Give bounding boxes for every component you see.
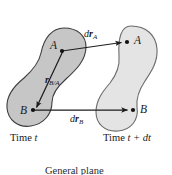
time-label-tdt-value: t + dt bbox=[127, 132, 150, 143]
figure-canvas bbox=[0, 0, 172, 175]
time-label-t-prefix: Time bbox=[10, 132, 34, 143]
general-plane-motion-figure: A B A B drA rB/A drB Time t Time t + dt … bbox=[0, 0, 172, 175]
vector-label-drA: drA bbox=[84, 29, 97, 41]
time-label-tdt-prefix: Time bbox=[103, 132, 127, 143]
point-dot-B-initial bbox=[31, 108, 35, 112]
point-label-B-initial: B bbox=[20, 105, 27, 117]
vector-label-drB-sub: B bbox=[79, 118, 83, 126]
point-label-B-final: B bbox=[140, 104, 147, 116]
point-dot-A-final bbox=[125, 40, 129, 44]
point-dot-A-initial bbox=[60, 49, 64, 53]
vector-label-rBA-sub: B/A bbox=[49, 79, 60, 87]
time-label-t: Time t bbox=[10, 133, 37, 144]
vector-label-rBA: rB/A bbox=[45, 75, 59, 87]
vector-label-drA-sub: A bbox=[93, 33, 97, 41]
figure-caption-line1: General plane bbox=[45, 164, 104, 175]
figure-caption: General plane motion bbox=[45, 151, 104, 175]
vector-label-drB: drB bbox=[70, 114, 83, 126]
point-label-A-final: A bbox=[134, 35, 141, 47]
point-label-A-initial: A bbox=[50, 40, 57, 52]
point-dot-B-final bbox=[131, 108, 135, 112]
time-label-t-plus-dt: Time t + dt bbox=[103, 133, 151, 144]
time-label-t-value: t bbox=[34, 132, 37, 143]
